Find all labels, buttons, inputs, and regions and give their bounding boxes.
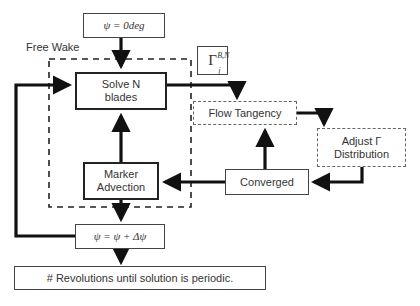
marker-advection-line2: Advection xyxy=(97,181,145,194)
solve-n-blades-line1: Solve N xyxy=(102,78,141,91)
flow-tangency-box: Flow Tangency xyxy=(193,101,297,125)
marker-advection-box: Marker Advection xyxy=(83,162,159,200)
converged-label: Converged xyxy=(240,176,294,189)
gamma-subscript: j xyxy=(218,64,220,77)
flow-tangency-label: Flow Tangency xyxy=(208,107,281,120)
azimuth-increment-label: ψ = ψ + Δψ xyxy=(94,230,147,243)
start-azimuth-box: ψ = 0deg xyxy=(83,13,165,38)
solve-n-blades-line2: blades xyxy=(105,91,137,104)
converged-box: Converged xyxy=(225,169,309,195)
free-wake-label: Free Wake xyxy=(26,41,79,53)
circulation-gamma-box: ΓB,Nj xyxy=(197,46,228,75)
start-azimuth-label: ψ = 0deg xyxy=(103,19,144,32)
adjust-distribution-line1: Adjust Γ xyxy=(342,135,382,148)
gamma-symbol: Γ xyxy=(208,52,217,68)
solve-n-blades-box: Solve N blades xyxy=(75,72,167,110)
gamma-superscript: B,N xyxy=(217,49,229,62)
marker-advection-line1: Marker xyxy=(104,168,138,181)
adjust-distribution-line2: Distribution xyxy=(334,148,389,161)
adjust-distribution-box: Adjust Γ Distribution xyxy=(317,128,406,167)
azimuth-increment-box: ψ = ψ + Δψ xyxy=(75,224,165,249)
revolutions-box: # Revolutions until solution is periodic… xyxy=(14,266,266,290)
revolutions-label: # Revolutions until solution is periodic… xyxy=(47,272,234,285)
